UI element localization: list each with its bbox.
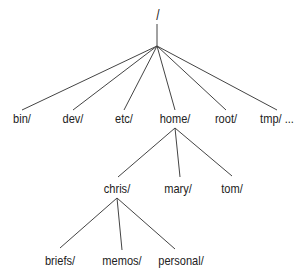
edge-chris-briefs [60, 198, 117, 248]
edge-root-dev [73, 46, 157, 110]
edge-root-tmp [157, 46, 277, 110]
node-bin: bin/ [13, 112, 31, 126]
node-dev: dev/ [63, 112, 84, 126]
node-root: / [156, 8, 159, 22]
edge-root-bin [22, 46, 157, 110]
node-tom: tom/ [221, 182, 243, 196]
tree-edges [0, 0, 305, 277]
node-memos: memos/ [102, 254, 141, 268]
edge-root-root [157, 46, 226, 110]
node-personal: personal/ [158, 254, 203, 268]
node-home: home/ [160, 112, 191, 126]
node-tmp: tmp/ ... [260, 112, 294, 126]
edge-chris-personal [117, 198, 175, 249]
edge-root-home [157, 46, 175, 110]
node-mary: mary/ [164, 182, 192, 196]
node-etc: etc/ [115, 112, 133, 126]
edge-root-etc [124, 46, 157, 110]
node-chris: chris/ [104, 182, 130, 196]
node-root-dir: root/ [215, 112, 237, 126]
edge-home-tom [175, 128, 232, 176]
directory-tree-diagram: / bin/ dev/ etc/ home/ root/ tmp/ ... ch… [0, 0, 305, 277]
edge-chris-memos [117, 198, 122, 250]
node-briefs: briefs/ [45, 254, 75, 268]
edge-home-mary [175, 128, 180, 177]
edge-home-chris [118, 128, 175, 177]
